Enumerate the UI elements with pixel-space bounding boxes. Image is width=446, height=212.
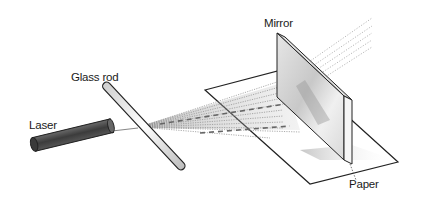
glass-rod-label: Glass rod [71, 71, 118, 83]
paper-label: Paper [349, 178, 379, 190]
mirror-label: Mirror [264, 17, 293, 29]
laser-label: Laser [29, 119, 57, 131]
laser-beam [112, 128, 138, 131]
diagram-canvas: Laser Glass rod Mirror Paper [0, 0, 446, 212]
apparatus-drawing [0, 0, 446, 212]
